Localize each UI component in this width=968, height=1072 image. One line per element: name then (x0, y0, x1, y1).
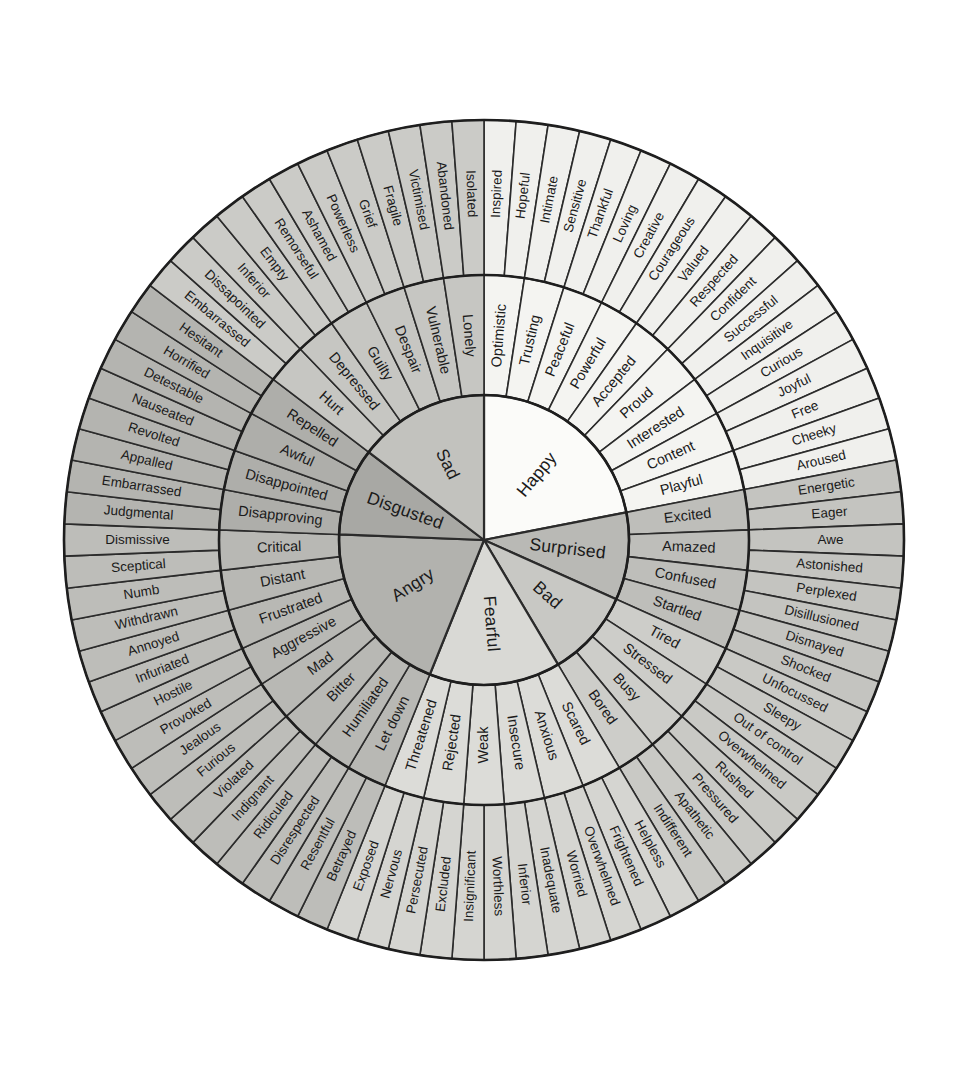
outer-label-dismissive: Dismissive (105, 532, 170, 547)
outer-label-worthless: Worthless (490, 856, 507, 917)
outer-label-awe: Awe (817, 532, 843, 547)
middle-label-weak: Weak (475, 726, 491, 764)
middle-label-lonely: Lonely (460, 314, 479, 359)
middle-label-critical: Critical (257, 538, 302, 556)
outer-label-inspired: Inspired (488, 169, 505, 218)
emotion-wheel-diagram: OptimisticInspiredHopefulTrustingIntimat… (0, 0, 968, 1072)
middle-label-amazed: Amazed (662, 538, 716, 556)
outer-label-insignificant: Insignificant (461, 850, 479, 922)
emotion-wheel-container: OptimisticInspiredHopefulTrustingIntimat… (0, 0, 968, 1072)
outer-label-eager: Eager (811, 504, 849, 522)
outer-label-isolated: Isolated (463, 170, 480, 218)
core-label-fearful: Fearful (480, 595, 504, 652)
